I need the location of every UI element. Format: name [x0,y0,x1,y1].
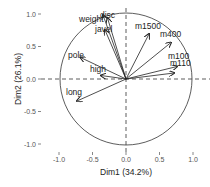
y-tick-label: -1.0 [24,141,36,148]
y-axis: 1.0 0.5 0.0 -0.5 -1.0 [24,11,41,148]
x-axis: -1.0 -0.5 0.0 0.5 1.0 [53,152,198,163]
label-m110: m110 [170,58,191,68]
label-m1500: m1500 [135,21,161,31]
label-m400: m400 [160,29,182,39]
x-tick-label: -1.0 [53,156,65,163]
label-javel: javel [94,24,113,34]
plot-panel [41,8,210,152]
y-axis-title: Dim2 (26.1%) [13,53,23,105]
x-tick-label: 0.5 [155,156,165,163]
y-tick-label: 0.5 [26,43,36,50]
y-tick-label: 0.0 [26,76,36,83]
label-high: high [90,64,106,74]
pca-variable-plot: 1.0 0.5 0.0 -0.5 -1.0 -1.0 -0.5 0.0 0.5 … [0,0,210,187]
label-disc: disc [100,10,116,20]
x-tick-label: 1.0 [188,156,198,163]
x-tick-label: 0.0 [121,156,131,163]
label-pole: pole [68,50,84,60]
y-tick-label: -0.5 [24,108,36,115]
label-long: long [66,87,82,97]
x-axis-title: Dim1 (34.2%) [100,167,152,177]
y-tick-label: 1.0 [26,11,36,18]
x-tick-label: -0.5 [86,156,98,163]
